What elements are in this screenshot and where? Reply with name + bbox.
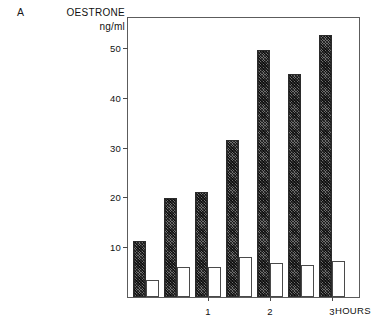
y-tick-mark [123,197,128,198]
y-tick-label: 30 [110,142,121,153]
x-tick-mark [270,297,271,301]
bar-control [177,267,190,297]
bar-control [301,265,314,297]
chart-title: OESTRONE [55,6,125,20]
y-tick-label: 20 [110,192,121,203]
plot-frame: 1020304050 123 [127,17,360,298]
bar-control [270,263,283,297]
x-axis-unit-label: HOURS [335,305,371,316]
title-block: OESTRONE ng/ml [55,6,125,34]
figure-root: A OESTRONE ng/ml 1020304050 123 HOURS [0,0,392,328]
x-tick-label: 3 [329,306,334,317]
y-tick-mark [123,98,128,99]
bar-control [332,261,345,297]
y-tick-label: 50 [110,42,121,53]
bar-control [208,267,221,297]
bar-treated [133,241,146,297]
chart-subtitle: ng/ml [55,20,125,34]
y-tick-label: 40 [110,92,121,103]
panel-letter: A [17,6,24,18]
bar-treated [319,35,332,297]
bar-treated [164,198,177,297]
bar-control [239,257,252,297]
bar-treated [288,74,301,297]
bar-control [146,280,159,297]
x-tick-label: 1 [205,306,210,317]
bar-treated [257,50,270,297]
x-tick-mark [332,297,333,301]
plot-area: 1020304050 123 [128,18,359,297]
x-tick-mark [208,297,209,301]
x-tick-label: 2 [267,306,272,317]
y-tick-mark [123,48,128,49]
bar-treated [226,140,239,297]
y-tick-mark [123,247,128,248]
bar-treated [195,192,208,297]
y-tick-mark [123,148,128,149]
y-tick-label: 10 [110,242,121,253]
